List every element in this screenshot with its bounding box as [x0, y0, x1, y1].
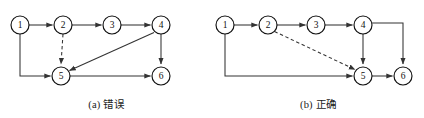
node-a-2-label: 2: [61, 20, 66, 30]
edge-b-1-5: [225, 34, 353, 76]
node-b-5: 5: [354, 67, 372, 85]
node-b-5-label: 5: [361, 71, 366, 81]
graph-b: 5 dashed diagonal --> 1 2 3: [212, 0, 424, 96]
node-b-4: 4: [354, 16, 372, 34]
node-b-2: 2: [259, 16, 277, 34]
edge-a-1-5: [20, 34, 51, 76]
edge-b-4-6: [372, 23, 403, 64]
node-b-6-label: 6: [401, 71, 406, 81]
edge-b-2-5-dashed: [275, 32, 356, 70]
node-b-1-label: 1: [223, 20, 228, 30]
node-a-4-label: 4: [159, 20, 164, 30]
node-a-3-label: 3: [110, 20, 115, 30]
edge-a-4-5: [70, 33, 155, 71]
graph-a: 5 dashed vertical --> 1 2 3: [0, 0, 212, 96]
diagram-panel-a: 5 dashed vertical --> 1 2 3: [0, 0, 212, 118]
node-a-5: 5: [52, 67, 70, 85]
caption-a: (a) 错误: [0, 96, 212, 111]
node-b-6: 6: [394, 67, 412, 85]
node-a-4: 4: [152, 16, 170, 34]
node-b-4-label: 4: [361, 20, 366, 30]
node-a-3: 3: [103, 16, 121, 34]
node-a-6: 6: [152, 67, 170, 85]
diagram-panel-b: 5 dashed diagonal --> 1 2 3: [212, 0, 424, 118]
node-a-6-label: 6: [159, 71, 164, 81]
node-b-1: 1: [216, 16, 234, 34]
node-a-1-label: 1: [18, 20, 23, 30]
edge-a-2-5-dashed: [61, 34, 63, 64]
node-b-3: 3: [307, 16, 325, 34]
node-a-2: 2: [54, 16, 72, 34]
node-b-2-label: 2: [266, 20, 271, 30]
node-b-3-label: 3: [314, 20, 319, 30]
node-a-5-label: 5: [59, 71, 64, 81]
figure-root: 5 dashed vertical --> 1 2 3: [0, 0, 424, 118]
node-a-1: 1: [11, 16, 29, 34]
caption-b: (b) 正确: [212, 96, 424, 111]
